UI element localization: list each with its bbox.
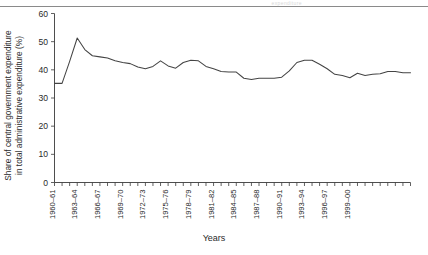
y-axis-tick-label: 10 <box>38 149 48 159</box>
y-axis-tick-label: 40 <box>38 65 48 75</box>
y-axis-tick-label: 50 <box>38 37 48 47</box>
x-axis-tick-group <box>55 183 411 187</box>
y-axis-tick-label: 20 <box>38 121 48 131</box>
x-axis-tick-label: 1990–91 <box>275 190 284 220</box>
y-axis-tick-group: 0102030405060 <box>38 9 54 188</box>
axis-lines <box>55 14 411 183</box>
line-chart-plot: 0102030405060 1960–611963–641966–671969–… <box>0 0 428 255</box>
x-axis-tick-label: 1984–85 <box>229 190 238 220</box>
x-axis-tick-label: 1963–64 <box>70 190 79 220</box>
x-axis-tick-label-group: 1960–611963–641966–671969–701972–731975–… <box>48 190 352 220</box>
y-axis-tick-label: 60 <box>38 9 48 19</box>
series-line-share-of-expenditure <box>55 38 411 83</box>
x-axis-tick-label: 1972–73 <box>138 190 147 220</box>
y-axis-tick-label: 0 <box>43 178 48 188</box>
x-axis-tick-label: 1993–94 <box>297 190 306 220</box>
x-axis-tick-label: 1999–00 <box>343 190 352 220</box>
x-axis-tick-label: 1987–88 <box>252 190 261 220</box>
x-axis-tick-label: 1996–97 <box>320 190 329 220</box>
x-axis-tick-label: 1981–82 <box>207 190 216 220</box>
x-axis-tick-label: 1960–61 <box>48 190 57 220</box>
figure-container: expenditure Share of central government … <box>0 0 428 255</box>
y-axis-tick-label: 30 <box>38 93 48 103</box>
x-axis-tick-label: 1975–76 <box>161 190 170 220</box>
x-axis-tick-label: 1969–70 <box>116 190 125 220</box>
x-axis-tick-label: 1966–67 <box>93 190 102 220</box>
x-axis-tick-label: 1978–79 <box>184 190 193 220</box>
